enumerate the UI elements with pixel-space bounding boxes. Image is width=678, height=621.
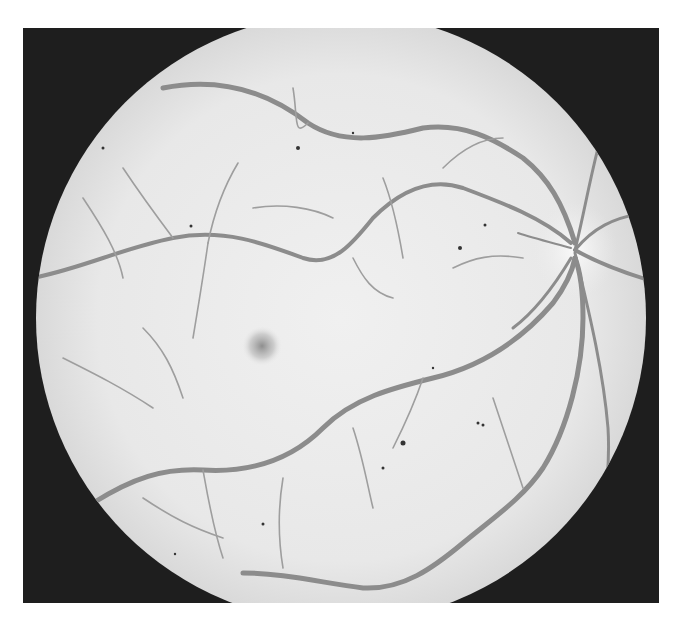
retina-fundus-image	[23, 28, 659, 603]
image-frame	[23, 28, 659, 603]
fovea	[242, 326, 282, 366]
fundus-disc	[36, 28, 646, 603]
